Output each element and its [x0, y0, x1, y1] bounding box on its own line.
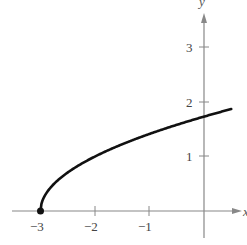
x-tick-label: −1 [138, 219, 152, 234]
x-axis-label: x [242, 204, 247, 219]
x-tick-label: −3 [30, 219, 44, 234]
x-axis-arrow-icon [232, 208, 242, 214]
y-tick-label: 3 [186, 40, 193, 55]
function-curve [41, 109, 232, 211]
y-tick-label: 1 [186, 149, 193, 164]
graph-canvas: x y −3 −2 −1 1 2 3 [0, 0, 247, 245]
x-tick-label: −2 [84, 219, 98, 234]
y-tick-label: 2 [186, 95, 193, 110]
endpoint-dot [37, 208, 44, 215]
y-axis-arrow-icon [201, 13, 207, 23]
y-axis-label: y [197, 0, 205, 9]
